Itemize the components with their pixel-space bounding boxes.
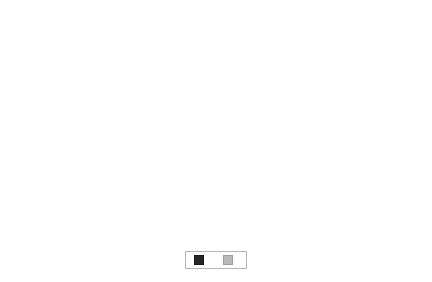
legend-item-atheist-agnostic[interactable] [194,255,209,265]
plot-area [36,10,420,212]
stacked-bar-chart [0,0,432,282]
legend-item-nothing-in-particular[interactable] [223,255,238,265]
chart-legend [185,251,247,269]
x-axis [36,214,420,230]
bar-group [36,10,420,212]
y-axis [0,10,34,212]
legend-swatch-icon [194,255,204,265]
legend-swatch-icon [223,255,233,265]
